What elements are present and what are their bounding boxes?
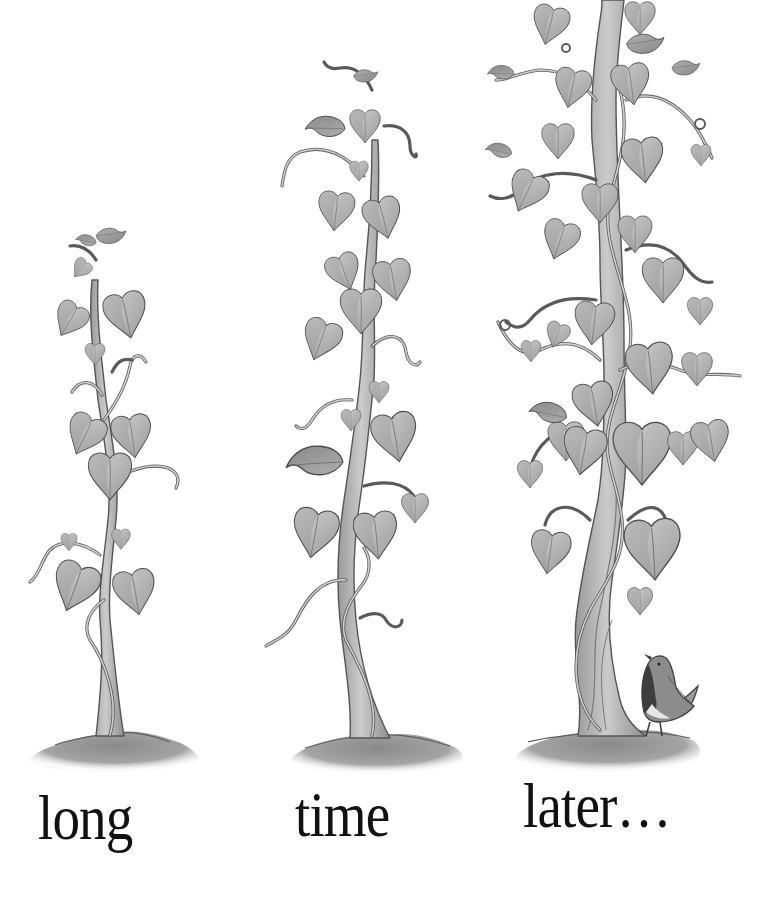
soil-mound xyxy=(290,734,463,774)
caption-word-time: time xyxy=(295,783,389,847)
beanstalk-illustration xyxy=(0,0,772,904)
caption-word-long: long xyxy=(38,786,132,850)
plant-medium-beanstalk xyxy=(266,62,463,774)
caption-word-later: later… xyxy=(523,774,671,838)
plant-small-beanstalk xyxy=(28,228,200,772)
bird xyxy=(642,654,698,736)
soil-mound xyxy=(28,732,200,772)
plant-tall-beanstalk xyxy=(485,0,740,772)
bird-eye xyxy=(658,663,661,666)
